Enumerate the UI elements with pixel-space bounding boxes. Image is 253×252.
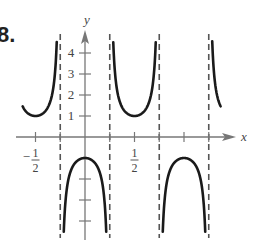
fraction-numerator: 1 <box>33 146 39 160</box>
y-tick-label: 2 <box>68 87 75 102</box>
y-tick-label: 4 <box>68 45 75 60</box>
x-tick-label: −12 <box>23 146 40 175</box>
curve-middle-upward <box>113 42 155 116</box>
y-tick-label: 3 <box>68 66 75 81</box>
fraction-numerator: 1 <box>132 146 138 160</box>
curve-right-partial-upward <box>212 41 220 106</box>
axis-labels: 4321−1212xy <box>23 12 247 175</box>
graph-figure: 8. 4321−1212xy <box>0 0 253 252</box>
fraction-denominator: 2 <box>33 161 39 175</box>
y-tick-label: 1 <box>68 108 75 123</box>
fraction-denominator: 2 <box>132 161 138 175</box>
x-axis-label: x <box>240 129 247 144</box>
curve-right-downward <box>163 158 205 232</box>
secant-plot: 4321−1212xy <box>0 0 253 252</box>
curve-left-partial-upward <box>23 42 57 116</box>
x-tick-label: 12 <box>131 146 139 175</box>
y-axis-label: y <box>82 12 90 27</box>
problem-number: 8. <box>0 22 15 48</box>
minus-sign: − <box>23 149 30 164</box>
